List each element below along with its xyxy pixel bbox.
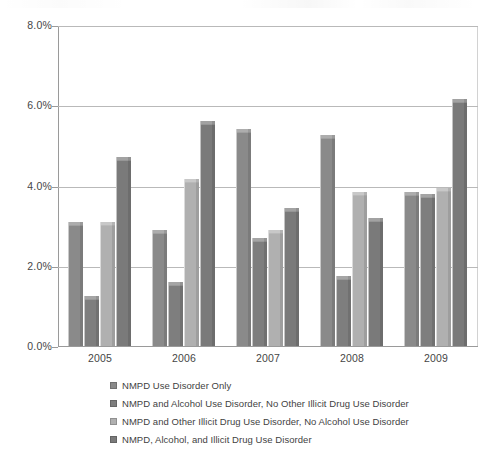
- legend-swatch-icon: [110, 436, 117, 443]
- legend-item-label: NMPD and Other Illicit Drug Use Disorder…: [122, 416, 409, 427]
- bar-side-shade: [128, 157, 131, 346]
- bar-side-shade: [296, 208, 299, 346]
- bar-side-shade: [416, 192, 419, 346]
- x-axis-tick-label-2005: 2005: [65, 352, 135, 364]
- bar-group-2005: [68, 26, 131, 346]
- bar-side-shade: [448, 188, 451, 346]
- bar-side-shade: [196, 179, 199, 346]
- legend-swatch-icon: [110, 382, 117, 389]
- scan-artifact-band: [0, 0, 498, 8]
- bar-2005-series-1: [68, 222, 83, 346]
- bar-2006-series-2: [168, 282, 183, 346]
- legend-item-label: NMPD Use Disorder Only: [122, 380, 231, 391]
- bar-2005-series-2: [84, 296, 99, 346]
- y-axis-tick-label: 2.0%: [8, 260, 52, 272]
- legend-item-label: NMPD, Alcohol, and Illicit Drug Use Diso…: [122, 434, 312, 445]
- bar-group-2006: [152, 26, 215, 346]
- bars-layer: [59, 26, 477, 346]
- y-axis-tick-label: 8.0%: [8, 19, 52, 31]
- bar-2007-series-2: [252, 238, 267, 346]
- y-axis-tick-label: 4.0%: [8, 180, 52, 192]
- bar-2008-series-3: [352, 192, 367, 346]
- bar-2007-series-4: [284, 208, 299, 346]
- bar-2006-series-1: [152, 230, 167, 346]
- y-tick-mark: [52, 106, 58, 107]
- y-axis-tick-label: 6.0%: [8, 99, 52, 111]
- y-tick-mark: [52, 26, 58, 27]
- legend-swatch-icon: [110, 418, 117, 425]
- bar-side-shade: [212, 121, 215, 346]
- legend-item-2: NMPD and Alcohol Use Disorder, No Other …: [110, 394, 490, 412]
- bar-side-shade: [348, 276, 351, 346]
- x-axis-tick-label-2008: 2008: [317, 352, 387, 364]
- legend-item-4: NMPD, Alcohol, and Illicit Drug Use Diso…: [110, 430, 490, 448]
- bar-side-shade: [112, 222, 115, 346]
- legend-item-3: NMPD and Other Illicit Drug Use Disorder…: [110, 412, 490, 430]
- legend-item-1: NMPD Use Disorder Only: [110, 376, 490, 394]
- bar-side-shade: [380, 218, 383, 346]
- x-axis-tick-label-2007: 2007: [233, 352, 303, 364]
- x-axis-tick-label-2009: 2009: [401, 352, 471, 364]
- bar-2008-series-4: [368, 218, 383, 346]
- legend-swatch-icon: [110, 400, 117, 407]
- bar-group-2007: [236, 26, 299, 346]
- x-axis-tick-label-2006: 2006: [149, 352, 219, 364]
- bar-2007-series-1: [236, 129, 251, 346]
- y-tick-mark: [52, 267, 58, 268]
- bar-2005-series-3: [100, 222, 115, 346]
- bar-2009-series-1: [404, 192, 419, 346]
- bar-side-shade: [332, 135, 335, 346]
- bar-2005-series-4: [116, 157, 131, 346]
- bar-2009-series-3: [436, 188, 451, 346]
- y-tick-mark: [52, 347, 58, 348]
- bar-side-shade: [280, 230, 283, 346]
- bar-side-shade: [364, 192, 367, 346]
- bar-2006-series-3: [184, 179, 199, 346]
- bar-group-2009: [404, 26, 467, 346]
- bar-side-shade: [248, 129, 251, 346]
- y-axis-tick-label: 0.0%: [8, 340, 52, 352]
- bar-2006-series-4: [200, 121, 215, 346]
- bar-side-shade: [264, 238, 267, 346]
- chart-legend: NMPD Use Disorder OnlyNMPD and Alcohol U…: [110, 376, 490, 448]
- bar-side-shade: [96, 296, 99, 346]
- bar-side-shade: [164, 230, 167, 346]
- legend-item-label: NMPD and Alcohol Use Disorder, No Other …: [122, 398, 409, 409]
- bar-2007-series-3: [268, 230, 283, 346]
- bar-2008-series-2: [336, 276, 351, 346]
- bar-group-2008: [320, 26, 383, 346]
- bar-side-shade: [432, 194, 435, 346]
- bar-2008-series-1: [320, 135, 335, 346]
- bar-2009-series-2: [420, 194, 435, 346]
- bar-2009-series-4: [452, 99, 467, 346]
- y-tick-mark: [52, 187, 58, 188]
- bar-side-shade: [464, 99, 467, 346]
- bar-side-shade: [80, 222, 83, 346]
- bar-side-shade: [180, 282, 183, 346]
